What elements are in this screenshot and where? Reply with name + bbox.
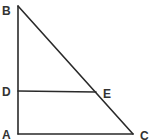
label-c: C — [140, 129, 149, 140]
label-e: E — [103, 87, 111, 101]
segment-bc — [18, 6, 133, 134]
label-b: B — [2, 4, 11, 18]
label-a: A — [2, 128, 11, 140]
triangle-diagram: B D A E C — [0, 0, 149, 140]
segment-de — [18, 91, 96, 92]
label-d: D — [2, 85, 11, 99]
